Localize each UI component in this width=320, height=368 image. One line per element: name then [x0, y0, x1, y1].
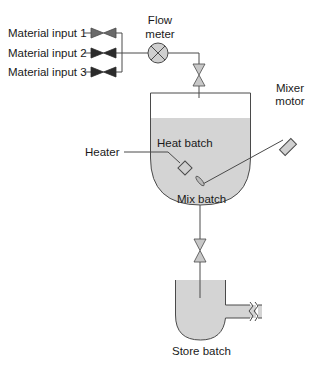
valve-input-1[interactable] [91, 28, 116, 38]
valve-outlet[interactable] [194, 239, 206, 262]
label-store-batch: Store batch [172, 345, 231, 358]
label-meter: meter [140, 28, 180, 41]
label-flow: Flow [140, 14, 180, 27]
valve-feed[interactable] [193, 64, 205, 86]
label-mixer: Mixer [268, 82, 312, 95]
valve-input-3[interactable] [91, 67, 116, 77]
label-material-input-1: Material input 1 [8, 27, 87, 40]
label-material-input-2: Material input 2 [8, 47, 87, 60]
storage-tank [176, 280, 263, 340]
label-motor: motor [268, 95, 312, 108]
label-mix-batch: Mix batch [177, 193, 226, 206]
label-heater: Heater [85, 146, 120, 159]
feed-pipe [168, 53, 199, 98]
label-material-input-3: Material input 3 [8, 66, 87, 79]
flow-meter-icon [148, 43, 168, 63]
valve-input-2[interactable] [91, 48, 116, 58]
label-heat-batch: Heat batch [157, 137, 213, 150]
